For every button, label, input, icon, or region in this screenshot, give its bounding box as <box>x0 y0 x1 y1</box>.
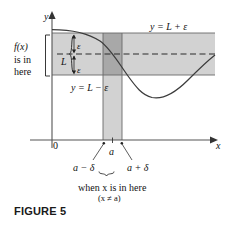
figure-caption: FIGURE 5 <box>14 205 66 217</box>
fx-bracket <box>46 35 51 76</box>
x-axis-label: x <box>216 140 220 151</box>
x-not-equal-a-label: (x ≠ a) <box>98 193 121 204</box>
figure-container: f(x) is in here L ε ε y = L + ε y = L − … <box>0 0 232 225</box>
fx-label-line3: here <box>14 66 31 79</box>
leader-a-plus-delta <box>122 144 132 160</box>
fx-label-line1: f(x) <box>14 41 31 54</box>
line-lower-label: y = L − ε <box>71 82 108 93</box>
epsilon-lower-label: ε <box>77 65 81 76</box>
limit-value-label: L <box>61 56 67 67</box>
y-axis-label: y <box>44 11 48 22</box>
fx-is-in-here-label: f(x) is in here <box>14 41 31 79</box>
when-x-is-in-here-label: when x is in here <box>78 182 146 193</box>
leader-dot-a-minus-delta <box>103 142 106 145</box>
when-x-underbrace <box>99 172 114 177</box>
epsilon-upper-label: ε <box>77 41 81 52</box>
fx-label-line2: is in <box>14 54 31 67</box>
origin-label: 0 <box>53 140 58 151</box>
a-plus-delta-label: a + δ <box>127 162 148 173</box>
leader-a-minus-delta <box>93 144 104 160</box>
a-minus-delta-label: a − δ <box>73 162 94 173</box>
y-axis-arrow-icon <box>48 11 55 19</box>
line-upper-label: y = L + ε <box>150 21 187 32</box>
leader-dot-a-plus-delta <box>121 142 124 145</box>
point-a-label: a <box>109 146 114 157</box>
